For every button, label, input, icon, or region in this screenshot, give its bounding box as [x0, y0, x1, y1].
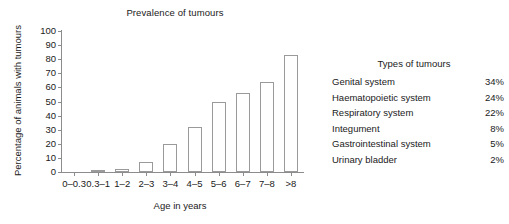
- tumour-types-body: Genital system34%Haematopoietic system24…: [332, 74, 504, 167]
- x-tick-label: >8: [286, 178, 297, 189]
- x-tick-label: 1–2: [114, 178, 130, 189]
- tumour-type-row: Integument8%: [332, 121, 504, 137]
- figure-page: Prevalence of tumours Percentage of anim…: [0, 0, 509, 224]
- tumour-type-name: Gastrointestinal system: [332, 136, 476, 152]
- tumour-type-row: Haematopoietic system24%: [332, 90, 504, 106]
- x-tick-mark: [98, 172, 99, 176]
- tumour-type-percentage: 34%: [476, 74, 504, 90]
- plot-area: 0102030405060708090100 0–0.30.3–11–22–33…: [62, 31, 303, 172]
- x-tick-label: 7–8: [259, 178, 275, 189]
- tumour-type-percentage: 8%: [476, 121, 504, 137]
- x-tick-mark: [243, 172, 244, 176]
- y-tick-mark: [58, 45, 62, 46]
- tumour-types-title: Types of tumours: [332, 58, 504, 69]
- x-tick-mark: [122, 172, 123, 176]
- bar: [284, 55, 298, 172]
- tumour-type-name: Haematopoietic system: [332, 90, 476, 106]
- bar: [236, 93, 250, 172]
- tumour-type-row: Gastrointestinal system5%: [332, 136, 504, 152]
- y-tick-mark: [58, 158, 62, 159]
- x-tick-label: 2–3: [138, 178, 154, 189]
- tumour-type-percentage: 2%: [476, 152, 504, 168]
- x-tick-mark: [146, 172, 147, 176]
- bar: [163, 144, 177, 172]
- x-tick-mark: [291, 172, 292, 176]
- bar: [139, 162, 153, 172]
- chart-title: Prevalence of tumours: [50, 7, 300, 18]
- x-tick-mark: [195, 172, 196, 176]
- bar: [260, 82, 274, 172]
- x-tick-label: 0.3–1: [86, 178, 110, 189]
- x-tick-label: 4–5: [187, 178, 203, 189]
- tumour-type-name: Genital system: [332, 74, 476, 90]
- x-tick-mark: [170, 172, 171, 176]
- x-tick-mark: [219, 172, 220, 176]
- bar: [212, 102, 226, 173]
- y-tick-mark: [58, 73, 62, 74]
- y-tick-label: 30: [45, 124, 56, 135]
- y-tick-mark: [58, 172, 62, 173]
- x-tick-label: 6–7: [235, 178, 251, 189]
- y-tick-mark: [58, 144, 62, 145]
- y-tick-label: 70: [45, 67, 56, 78]
- tumour-type-row: Respiratory system22%: [332, 105, 504, 121]
- y-tick-label: 50: [45, 96, 56, 107]
- tumour-type-name: Integument: [332, 121, 476, 137]
- y-tick-label: 100: [40, 25, 56, 36]
- y-tick-mark: [58, 116, 62, 117]
- y-tick-label: 90: [45, 39, 56, 50]
- x-tick-label: 0–0.3: [62, 178, 86, 189]
- tumour-types-table: Genital system34%Haematopoietic system24…: [332, 74, 504, 167]
- bar-chart-figure: Prevalence of tumours Percentage of anim…: [0, 0, 320, 224]
- y-tick-label: 60: [45, 81, 56, 92]
- y-tick-mark: [58, 102, 62, 103]
- tumour-type-percentage: 24%: [476, 90, 504, 106]
- bar: [188, 127, 202, 172]
- y-tick-mark: [58, 31, 62, 32]
- y-tick-mark: [58, 87, 62, 88]
- x-tick-label: 3–4: [163, 178, 179, 189]
- tumour-types-panel: Types of tumours Genital system34%Haemat…: [332, 58, 504, 167]
- y-tick-label: 20: [45, 138, 56, 149]
- y-tick-label: 40: [45, 110, 56, 121]
- y-tick-label: 10: [45, 152, 56, 163]
- y-axis-label: Percentage of animals with tumours: [12, 21, 23, 181]
- x-tick-label: 5–6: [211, 178, 227, 189]
- tumour-type-row: Genital system34%: [332, 74, 504, 90]
- x-axis-label: Age in years: [55, 200, 305, 211]
- y-tick-label: 0: [51, 166, 56, 177]
- tumour-type-percentage: 5%: [476, 136, 504, 152]
- tumour-type-name: Urinary bladder: [332, 152, 476, 168]
- tumour-type-name: Respiratory system: [332, 105, 476, 121]
- y-tick-label: 80: [45, 53, 56, 64]
- x-tick-mark: [74, 172, 75, 176]
- x-tick-mark: [267, 172, 268, 176]
- tumour-type-row: Urinary bladder2%: [332, 152, 504, 168]
- tumour-type-percentage: 22%: [476, 105, 504, 121]
- y-tick-mark: [58, 59, 62, 60]
- y-tick-mark: [58, 130, 62, 131]
